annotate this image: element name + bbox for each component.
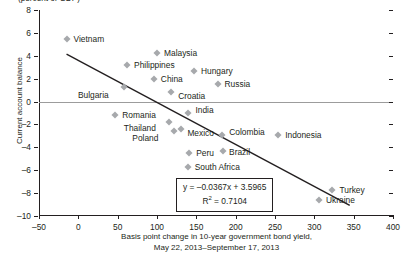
x-tick [78,215,79,219]
y-tick [34,56,38,57]
data-point-label: China [161,74,183,84]
data-point-label: Peru [196,148,214,158]
data-point-label: Colombia [229,127,264,137]
y-tick-label: 2 [1,74,31,84]
y-tick-label: 6 [1,28,31,38]
y-tick [34,170,38,171]
x-axis-title: Basis point change in 10-year government… [39,231,394,253]
x-tick [39,215,40,219]
r-squared-value: R2 = 0.7104 [183,193,266,207]
x-tick [393,215,394,219]
data-point-label: Ukraine [326,195,355,205]
data-point-label: India [195,105,213,115]
y-tick [34,33,38,34]
x-tick [157,215,158,219]
x-tick [354,215,355,219]
data-point-label: Turkey [339,185,364,195]
y-tick-right [389,33,393,34]
units-caption: (percent of GDP) [18,0,80,3]
data-point-label: Mexico [187,128,214,138]
y-tick-right [389,193,393,194]
y-tick [34,193,38,194]
x-tick [236,215,237,219]
r-squared-number: = 0.7104 [212,196,247,206]
x-axis-title-line2: May 22, 2013–September 17, 2013 [39,242,394,253]
y-tick [34,10,38,11]
data-point-label: Malaysia [164,48,197,58]
y-tick [34,102,38,103]
y-tick-label: 0 [1,97,31,107]
x-tick [118,215,119,219]
data-point-label: Brazil [229,147,250,157]
y-tick-right [389,56,393,57]
data-point-label: Poland [132,133,158,143]
regression-equation: y = –0.0367x + 3.5965 [183,182,266,193]
y-tick-label: –6 [1,165,31,175]
data-point-label: Croatia [178,91,205,101]
x-tick [314,215,315,219]
y-tick-label: –2 [1,119,31,129]
x-tick [275,215,276,219]
data-point-label: Vietnam [74,34,105,44]
y-tick-right [389,170,393,171]
y-tick-right [389,147,393,148]
data-point-label: Thailand [124,123,156,133]
data-point-label: Hungary [201,66,233,76]
y-tick-label: –8 [1,188,31,198]
y-tick-label: –4 [1,142,31,152]
x-axis-title-line1: Basis point change in 10-year government… [39,231,394,242]
regression-equation-box: y = –0.0367x + 3.5965 R2 = 0.7104 [176,178,273,212]
y-tick-label: –10 [1,211,31,221]
data-point-label: Romania [122,110,156,120]
y-tick [34,124,38,125]
data-point-label: South Africa [195,162,240,172]
y-tick-label: 8 [1,5,31,15]
y-tick [34,79,38,80]
data-point-label: Indonesia [285,130,321,140]
y-tick-right [389,79,393,80]
y-tick-label: 4 [1,51,31,61]
y-tick-right [389,10,393,11]
y-tick-right [389,124,393,125]
y-tick-right [389,102,393,103]
chart-figure: (percent of GDP) Current account balance… [0,0,403,262]
y-tick [34,147,38,148]
data-point-label: Bulgaria [78,90,109,100]
data-point-label: Philippines [134,60,175,70]
y-tick [34,216,38,217]
data-point-label: Russia [225,79,251,89]
x-tick [196,215,197,219]
